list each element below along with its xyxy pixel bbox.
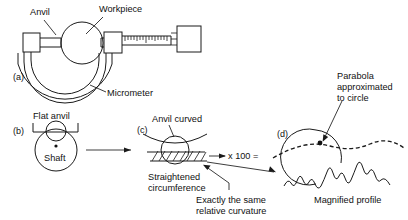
panel-tag-c: (c) [137,125,148,135]
straightened-label-line2: circumference [148,183,206,193]
parabola-dashed-curve [273,141,404,158]
multiplier-annotation-group: x 100 = [209,151,258,161]
parabola-leader-line [324,101,342,139]
left-anvil-block [23,33,40,52]
anvil-leader-line [44,20,56,35]
arrowhead-multiplier [219,153,226,158]
flat-anvil-bracket [33,123,78,132]
flat-anvil-label: Flat anvil [33,111,70,121]
panel-d-group: Parabola approximated to circle Magnifie… [273,71,404,205]
workpiece-circle [61,22,103,64]
workpiece-leader-line [86,17,103,34]
anvil-curved-leader-line [169,125,174,137]
shaft-label: Shaft [44,153,66,163]
curvature-pointer-to-d [207,162,276,172]
shaft-center-dot [54,144,57,147]
anvil-contact-circle [46,121,66,141]
frame-outer-arc [18,53,112,99]
anvil-label: Anvil [30,7,50,17]
anvil-curved-label: Anvil curved [152,114,202,124]
transform-arrow-b-to-c [86,147,131,152]
ratchet-block [177,26,201,52]
same-curvature-label-line2: relative curvature [196,206,266,216]
thimble-scale-ticks [125,36,167,43]
figure-page: Anvil Workpiece Micrometer (a) Flat anvi… [0,0,408,220]
panel-tag-a: (a) [13,72,24,82]
parabola-label-line1: Parabola [337,71,375,81]
panel-c-group: Anvil curved Straightened circumference [137,114,207,193]
panel-tag-d: (d) [277,129,288,139]
parabola-label-line2: approximated [337,82,393,92]
arrowhead-b-to-c [124,147,131,152]
technical-figure: Anvil Workpiece Micrometer (a) Flat anvi… [0,0,408,220]
panel-a-group: Anvil Workpiece Micrometer (a) [13,4,201,103]
panel-d-circle-right [316,130,341,163]
multiplier-label: x 100 = [228,151,258,161]
ratchet-end-lines [171,33,177,45]
parabola-label-line3: to circle [337,93,369,103]
workpiece-label: Workpiece [99,4,142,14]
same-curvature-label-line1: Exactly the same [196,195,266,205]
right-anvil-block [104,32,122,53]
panel-tag-b: (b) [13,126,24,136]
straightened-label-line1: Straightened [148,172,200,182]
left-anvil-stem [40,38,61,47]
curved-anvil-arc [143,134,207,143]
shaft-circle [35,129,77,171]
panel-b-group: Flat anvil Shaft (b) [13,111,78,171]
panel-c-shaft-circle [161,136,189,164]
parabola-marker-dot [318,141,323,146]
curvature-pointer-to-c [203,165,229,190]
magnified-profile-label: Magnified profile [314,195,381,205]
micrometer-label: Micrometer [107,88,153,98]
frame-inner-arc [31,52,99,94]
